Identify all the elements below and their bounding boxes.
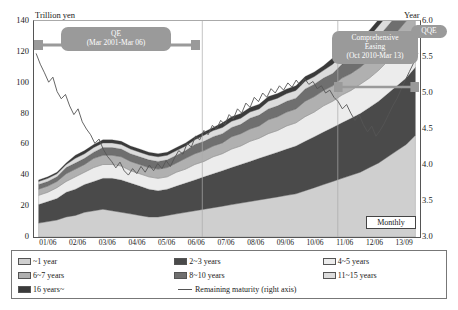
- legend-swatch-icon: [323, 272, 336, 279]
- y-tick-left: 80: [3, 108, 29, 118]
- legend-swatch-icon: [174, 258, 187, 265]
- y-tick-right: 4.0: [422, 159, 452, 169]
- legend-swatch-icon: [18, 286, 31, 293]
- y-axis-title-right: Year: [404, 10, 420, 20]
- legend-item-1year: ~1 year: [18, 257, 174, 266]
- qe-annotation-line2: (Mar 2001-Mar 06): [66, 39, 166, 48]
- legend-label: 6~7 years: [33, 271, 64, 280]
- y-tick-left: 120: [3, 46, 29, 56]
- legend-swatch-icon: [18, 258, 31, 265]
- legend-item-4-5years: 4~5 years: [323, 257, 440, 266]
- y-tick-left: 60: [3, 138, 29, 148]
- legend-item-6-7years: 6~7 years: [18, 271, 174, 280]
- legend-row: 16 years~ Remaining maturity (right axis…: [18, 282, 440, 296]
- y-tick-left: 100: [3, 77, 29, 87]
- y-tick-left: 40: [3, 169, 29, 179]
- y-tick-left: 140: [3, 15, 29, 25]
- legend-label: 16 years~: [33, 285, 64, 294]
- legend-label: 2~3 years: [189, 257, 220, 266]
- legend-item-remaining-maturity: Remaining maturity (right axis): [178, 285, 330, 294]
- chart-root: Trillion yen Year 020406080100120140 3.0…: [0, 0, 458, 310]
- chart-legend: ~1 year 2~3 years 4~5 years 6~7 years 8~…: [11, 250, 447, 299]
- legend-swatch-icon: [18, 272, 31, 279]
- legend-item-11-15years: 11~15 years: [323, 271, 440, 280]
- legend-line-icon: [178, 289, 192, 290]
- y-tick-right: 3.5: [422, 195, 452, 205]
- y-tick-right: 5.5: [422, 51, 452, 61]
- legend-label: Remaining maturity (right axis): [195, 285, 297, 294]
- legend-label: 4~5 years: [338, 257, 369, 266]
- legend-row: ~1 year 2~3 years 4~5 years: [18, 254, 440, 268]
- y-tick-right: 5.0: [422, 87, 452, 97]
- legend-row: 6~7 years 8~10 years 11~15 years: [18, 268, 440, 282]
- comprehensive-easing-period-arrow: [334, 78, 419, 88]
- y-tick-right: 6.0: [422, 15, 452, 25]
- y-tick-left: 20: [3, 200, 29, 210]
- y-axis-title-left: Trillion yen: [35, 10, 75, 20]
- qqe-annotation: QQE: [411, 25, 447, 38]
- legend-item-8-10years: 8~10 years: [174, 271, 322, 280]
- comprehensive-easing-annotation: Comprehensive Easing (Oct 2010-Mar 13): [332, 31, 418, 64]
- legend-label: 11~15 years: [338, 271, 377, 280]
- legend-item-2-3years: 2~3 years: [174, 257, 322, 266]
- qe-annotation: QE (Mar 2001-Mar 06): [61, 27, 171, 51]
- y-tick-left: 0: [3, 231, 29, 241]
- y-tick-right: 4.5: [422, 123, 452, 133]
- legend-label: 8~10 years: [189, 271, 224, 280]
- legend-swatch-icon: [323, 258, 336, 265]
- y-tick-right: 3.0: [422, 231, 452, 241]
- legend-swatch-icon: [174, 272, 187, 279]
- ce-annotation-line3: (Oct 2010-Mar 13): [337, 52, 413, 61]
- x-tick: 13/09: [384, 238, 424, 247]
- frequency-note: Monthly: [366, 216, 416, 229]
- legend-label: ~1 year: [33, 257, 57, 266]
- legend-item-16years: 16 years~: [18, 285, 178, 294]
